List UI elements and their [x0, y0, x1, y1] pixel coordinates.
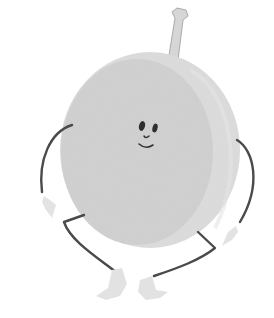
plum-character-illustration [0, 0, 274, 318]
illustration-canvas [0, 0, 274, 318]
left-foot [96, 268, 127, 300]
right-foot [138, 276, 168, 300]
right-hand [222, 226, 238, 246]
body [60, 52, 240, 248]
left-hand [42, 196, 56, 218]
